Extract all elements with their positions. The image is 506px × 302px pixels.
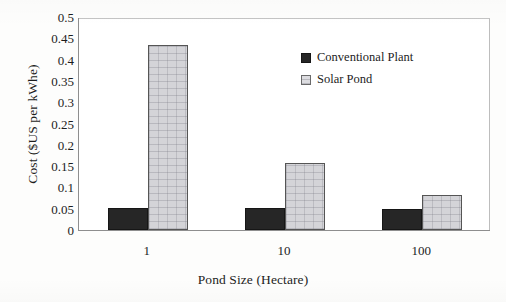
x-tick-label: 10: [278, 243, 291, 259]
bar-chart-figure: Cost ($US per kWhe) 00.050.10.150.20.250…: [0, 0, 506, 302]
plot-area: Conventional PlantSolar Pond: [78, 18, 490, 231]
y-tick-label: 0.35: [36, 74, 74, 90]
y-tick-label: 0.45: [36, 31, 74, 47]
x-axis-title: Pond Size (Hectare): [0, 272, 506, 288]
y-tick-label: 0.5: [36, 10, 74, 26]
y-tick-label: 0.4: [36, 53, 74, 69]
y-tick-label: 0.2: [36, 138, 74, 154]
y-tick-label: 0.15: [36, 159, 74, 175]
y-axis-tick-labels: 00.050.10.150.20.250.30.350.40.450.5: [36, 18, 74, 231]
x-axis-tick-labels: 110100: [78, 243, 490, 263]
y-tick-label: 0.25: [36, 117, 74, 133]
legend-item: Solar Pond: [301, 70, 461, 89]
legend-label: Conventional Plant: [317, 50, 413, 65]
y-tick-label: 0.05: [36, 202, 74, 218]
x-tick-label: 1: [143, 243, 150, 259]
y-tick-label: 0.3: [36, 95, 74, 111]
x-tick-label: 100: [412, 243, 432, 259]
legend-label: Solar Pond: [317, 72, 372, 87]
legend-swatch-solar-icon: [301, 75, 311, 85]
bar-solar-pond-1: [148, 45, 188, 230]
y-axis-line: [78, 18, 79, 231]
legend-swatch-conventional-icon: [301, 53, 311, 63]
bar-group: [108, 19, 188, 230]
bar-solar-pond-100: [422, 195, 462, 230]
chart-legend: Conventional PlantSolar Pond: [301, 48, 461, 92]
legend-item: Conventional Plant: [301, 48, 461, 67]
y-tick-label: 0: [36, 223, 74, 239]
bar-conventional-plant-1: [108, 208, 148, 230]
bar-conventional-plant-100: [382, 209, 422, 230]
bar-conventional-plant-10: [245, 208, 285, 230]
bar-solar-pond-10: [285, 163, 325, 230]
x-axis-line: [78, 230, 490, 231]
y-tick-label: 0.1: [36, 180, 74, 196]
